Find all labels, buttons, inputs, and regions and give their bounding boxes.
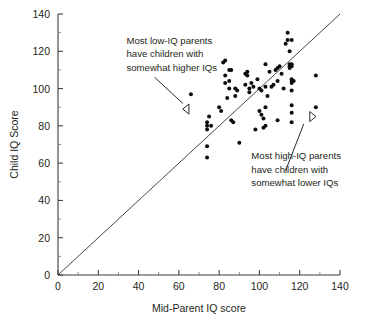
data-point xyxy=(249,81,253,85)
data-point xyxy=(227,87,231,91)
data-point xyxy=(286,38,290,42)
data-point xyxy=(290,103,294,107)
data-point xyxy=(259,113,263,117)
data-point xyxy=(205,156,209,160)
data-point xyxy=(290,88,294,92)
data-point xyxy=(209,124,213,128)
y-tick-label: 60 xyxy=(38,157,50,169)
low-iq-annotation: Most low-IQ parentshave children withsom… xyxy=(126,35,217,114)
data-point xyxy=(235,88,239,92)
data-point xyxy=(247,90,251,94)
y-tick-label: 80 xyxy=(38,120,50,132)
annotation-line: Most high-IQ parents xyxy=(251,150,341,161)
scatter-plot-figure: 020406080100120140020406080100120140Mid-… xyxy=(0,0,376,324)
data-point xyxy=(243,83,247,87)
data-point xyxy=(259,88,263,92)
data-point xyxy=(255,77,259,81)
data-point xyxy=(205,120,209,124)
data-point xyxy=(223,81,227,85)
data-point xyxy=(263,105,267,109)
x-tick-label: 120 xyxy=(291,280,309,292)
data-point xyxy=(231,120,235,124)
data-point xyxy=(189,92,193,96)
data-point xyxy=(314,74,318,78)
x-axis-title: Mid-Parent IQ score xyxy=(152,302,246,314)
data-point xyxy=(276,118,280,122)
data-point xyxy=(205,144,209,148)
data-point xyxy=(286,31,290,35)
data-point xyxy=(272,83,276,87)
data-point xyxy=(292,79,296,83)
data-point xyxy=(263,62,267,66)
data-point xyxy=(253,128,257,132)
x-tick-label: 20 xyxy=(92,280,104,292)
data-point xyxy=(223,74,227,78)
data-point xyxy=(290,120,294,124)
data-point xyxy=(257,109,261,113)
data-point xyxy=(265,94,269,98)
data-point xyxy=(227,79,231,83)
x-tick-label: 60 xyxy=(173,280,185,292)
data-point xyxy=(282,87,286,91)
x-tick-label: 100 xyxy=(251,280,269,292)
data-point xyxy=(223,59,227,63)
data-point xyxy=(207,115,211,119)
data-point xyxy=(205,124,209,128)
data-point xyxy=(263,124,267,128)
data-point xyxy=(225,96,229,100)
y-tick-label: 140 xyxy=(32,8,50,20)
annotation-line: have children with xyxy=(251,164,328,175)
data-point xyxy=(290,111,294,115)
data-point xyxy=(278,64,282,68)
iq-scatter-chart: 020406080100120140020406080100120140Mid-… xyxy=(0,0,376,324)
scatter-series xyxy=(189,31,318,160)
high-iq-annotation: Most high-IQ parentshave children withso… xyxy=(251,112,341,189)
data-point xyxy=(217,105,221,109)
y-tick-label: 100 xyxy=(32,83,50,95)
data-point xyxy=(245,70,249,74)
data-point xyxy=(263,85,267,89)
y-tick-label: 40 xyxy=(38,194,50,206)
data-point xyxy=(247,87,251,91)
annotation-triangle-marker xyxy=(310,112,316,122)
annotation-arrow xyxy=(155,77,183,103)
data-point xyxy=(284,42,288,46)
data-point xyxy=(233,94,237,98)
data-point xyxy=(261,116,265,120)
data-point xyxy=(314,105,318,109)
data-point xyxy=(237,141,241,145)
annotation-line: somewhat lower IQs xyxy=(251,177,338,188)
y-tick-label: 20 xyxy=(38,232,50,244)
data-point xyxy=(290,64,294,68)
annotation-line: have children with xyxy=(126,48,203,59)
data-point xyxy=(229,68,233,72)
data-point xyxy=(268,70,272,74)
annotation-triangle-marker xyxy=(183,104,189,114)
x-tick-label: 140 xyxy=(331,280,349,292)
data-point xyxy=(219,109,223,113)
annotation-line: Most low-IQ parents xyxy=(126,35,212,46)
data-point xyxy=(205,128,209,132)
x-tick-label: 40 xyxy=(133,280,145,292)
y-tick-label: 120 xyxy=(32,45,50,57)
x-tick-label: 80 xyxy=(213,280,225,292)
data-point xyxy=(251,85,255,89)
data-point xyxy=(280,72,284,76)
data-point xyxy=(290,38,294,42)
data-point xyxy=(276,79,280,83)
x-tick-label: 0 xyxy=(55,280,61,292)
annotation-line: somewhat higher IQs xyxy=(126,62,217,73)
y-axis-title: Child IQ Score xyxy=(8,110,20,178)
y-tick-label: 0 xyxy=(44,269,50,281)
data-point xyxy=(288,49,292,53)
data-point xyxy=(245,74,249,78)
